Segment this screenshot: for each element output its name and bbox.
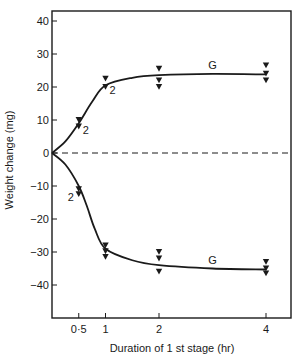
plot-frame <box>52 11 291 318</box>
weight-change-chart: 403020100−10−20−30−40 0·5124 GG 222 Dura… <box>0 0 298 360</box>
y-tick-label: −10 <box>30 180 49 192</box>
y-axis-label: Weight change (mg) <box>3 111 15 210</box>
replicate-count-label: 2 <box>83 124 89 136</box>
curves: GG <box>52 59 266 270</box>
y-tick-label: −30 <box>30 246 49 258</box>
triangle-marker <box>263 259 269 265</box>
chart-canvas: 403020100−10−20−30−40 0·5124 GG 222 Dura… <box>0 0 298 360</box>
triangle-marker <box>156 269 162 275</box>
y-tick-label: 30 <box>37 48 49 60</box>
triangle-marker <box>156 77 162 83</box>
y-tick-label: −40 <box>30 279 49 291</box>
triangle-marker <box>76 191 82 197</box>
triangle-marker <box>156 249 162 255</box>
x-axis-label: Duration of 1 st stage (hr) <box>110 342 235 354</box>
x-tick-label: 1 <box>102 323 108 335</box>
replicate-count-label: 2 <box>68 191 74 203</box>
triangle-marker <box>102 76 108 82</box>
y-tick-label: 0 <box>43 147 49 159</box>
triangle-marker <box>263 63 269 69</box>
replicate-count-label: 2 <box>109 84 115 96</box>
triangle-marker <box>263 266 269 272</box>
y-tick-label: 40 <box>37 15 49 27</box>
x-tick-label: 4 <box>263 323 269 335</box>
triangle-marker <box>263 270 269 276</box>
curve-label: G <box>208 254 217 266</box>
x-tick-label: 0·5 <box>71 323 87 335</box>
y-tick-label: 20 <box>37 81 49 93</box>
triangle-marker <box>102 254 108 260</box>
x-tick-label: 2 <box>156 323 162 335</box>
triangle-marker <box>156 84 162 90</box>
curve-label: G <box>208 59 217 71</box>
y-tick-label: 10 <box>37 114 49 126</box>
data-markers: 222 <box>68 63 270 277</box>
y-tick-label: −20 <box>30 213 49 225</box>
triangle-marker <box>263 77 269 83</box>
triangle-marker <box>156 66 162 72</box>
triangle-marker <box>156 256 162 262</box>
x-axis-ticks: 0·5124 <box>71 313 269 335</box>
